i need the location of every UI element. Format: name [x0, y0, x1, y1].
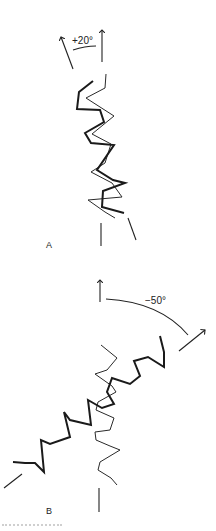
- panel-a: +20° A: [46, 30, 136, 250]
- thin-chain-b: [95, 345, 120, 485]
- rotated-arrow-b: [179, 330, 205, 351]
- panel-b: −50° B: [4, 280, 205, 516]
- bottom-line-a-rotated: [128, 218, 136, 240]
- thick-chain-a: [77, 81, 125, 213]
- bottom-line-b-rotated: [4, 474, 22, 488]
- thick-chain-b: [13, 336, 164, 472]
- angle-label-b: −50°: [145, 295, 166, 306]
- figure-drawing: +20° A −50° B: [0, 0, 216, 531]
- thin-chain-a: [86, 74, 122, 218]
- panel-label-b: B: [46, 506, 52, 516]
- angle-arc-a: [73, 46, 96, 50]
- panel-label-a: A: [46, 240, 52, 250]
- figure: +20° A −50° B: [0, 0, 216, 531]
- angle-label-a: +20°: [72, 35, 93, 46]
- figure-caption-partial: [2, 524, 62, 530]
